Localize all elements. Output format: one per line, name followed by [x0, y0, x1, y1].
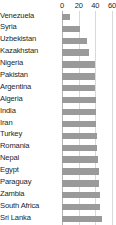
category-label: Nigeria	[0, 58, 53, 69]
bar	[62, 133, 97, 139]
bar	[62, 73, 95, 79]
bar	[62, 156, 98, 162]
category-label: Sri Lanka	[0, 213, 53, 224]
category-label: Kazakhstan	[0, 46, 53, 57]
x-tick-label: 60	[108, 0, 116, 11]
category-label: Argentina	[0, 82, 53, 93]
bar	[62, 85, 95, 91]
bar	[62, 168, 99, 174]
category-label: Iran	[0, 118, 53, 129]
bar	[62, 109, 96, 115]
bar	[62, 97, 96, 103]
bar	[62, 121, 96, 127]
category-label: South Africa	[0, 201, 53, 212]
category-label: Turkey	[0, 129, 53, 140]
x-axis-tick-labels: 0204060	[0, 0, 116, 11]
x-tick-label: 40	[91, 0, 99, 11]
category-label: India	[0, 106, 53, 117]
category-axis-labels: VenezuelaSyriaUzbekistanKazakhstanNigeri…	[0, 11, 56, 225]
bar	[62, 61, 95, 67]
category-label: Algeria	[0, 94, 53, 105]
bar	[62, 49, 89, 55]
category-label: Paraguay	[0, 177, 53, 188]
category-label: Romania	[0, 141, 53, 152]
category-label: Zambia	[0, 189, 53, 200]
x-tick-label: 0	[60, 0, 64, 11]
gridline	[112, 11, 113, 225]
category-label: Pakistan	[0, 70, 53, 81]
category-label: Venezuela	[0, 11, 53, 22]
bar	[62, 180, 99, 186]
category-label: Nepal	[0, 153, 53, 164]
bar-chart: 0204060 VenezuelaSyriaUzbekistanKazakhst…	[0, 0, 116, 225]
bar	[62, 14, 70, 20]
category-label: Syria	[0, 22, 53, 33]
x-tick-label: 20	[75, 0, 83, 11]
bar	[62, 216, 102, 222]
bar	[62, 145, 97, 151]
bar	[62, 192, 100, 198]
category-label: Uzbekistan	[0, 34, 53, 45]
plot-area	[62, 11, 112, 225]
bar	[62, 204, 100, 210]
category-label: Egypt	[0, 165, 53, 176]
bar	[62, 26, 80, 32]
bar	[62, 38, 87, 44]
